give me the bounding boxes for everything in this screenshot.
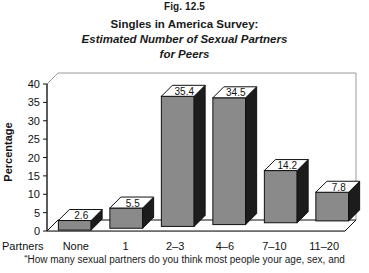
bar-front-face (161, 96, 194, 226)
y-tick-label: 40 (28, 78, 40, 90)
bar-front-face (58, 221, 91, 231)
bar-column: 7.8 (316, 181, 360, 221)
bar-value-label: 35.4 (175, 86, 195, 97)
y-tick-label: 35 (28, 96, 40, 108)
x-category-label: 11–20 (309, 240, 339, 252)
title-line-1: Singles in America Survey: (0, 17, 369, 32)
title-line-3: for Peers (0, 47, 369, 62)
y-axis-title: Percentage (2, 122, 14, 181)
bar-column: 35.4 (161, 85, 205, 226)
title-line-2: Estimated Number of Sexual Partners (0, 32, 369, 47)
bar-front-face (110, 208, 143, 228)
bar-value-label: 5.5 (126, 198, 140, 209)
x-category-label: 4–6 (216, 240, 234, 252)
bar-value-label: 7.8 (332, 182, 346, 193)
bar-front-face (213, 98, 246, 225)
y-tick-label: 20 (28, 152, 40, 164)
chart-plot-area: 0510152025303540Percentage2.6None5.5135.… (0, 62, 369, 252)
bar-side-face (246, 87, 257, 225)
bar-side-face (194, 85, 205, 226)
x-category-label: 2–3 (166, 240, 184, 252)
y-tick-label: 10 (28, 188, 40, 200)
bar-front-face (264, 171, 297, 223)
y-tick-label: 15 (28, 170, 40, 182)
y-tick-label: 30 (28, 115, 40, 127)
bar-column: 14.2 (264, 160, 308, 223)
x-category-label: 7–10 (262, 240, 286, 252)
bar-column: 5.5 (110, 197, 154, 228)
y-tick-label: 25 (28, 133, 40, 145)
bar-column: 34.5 (213, 87, 257, 225)
x-category-label: None (63, 240, 89, 252)
bar-value-label: 34.5 (226, 87, 246, 98)
x-axis-title: Partners (2, 240, 44, 252)
x-category-label: 1 (122, 240, 128, 252)
y-tick-label: 0 (34, 225, 40, 237)
bar-front-face (316, 192, 349, 221)
bar-value-label: 2.6 (74, 210, 88, 221)
bar-chart-3d: 0510152025303540Percentage2.6None5.5135.… (0, 62, 369, 252)
chart-caption: “How many sexual partners do you think m… (0, 253, 369, 266)
bar-value-label: 14.2 (278, 160, 298, 171)
y-tick-label: 5 (34, 207, 40, 219)
chart-title: Singles in America Survey: Estimated Num… (0, 17, 369, 62)
figure-label: Fig. 12.5 (0, 1, 369, 12)
y-axis: 0510152025303540 (28, 78, 47, 237)
